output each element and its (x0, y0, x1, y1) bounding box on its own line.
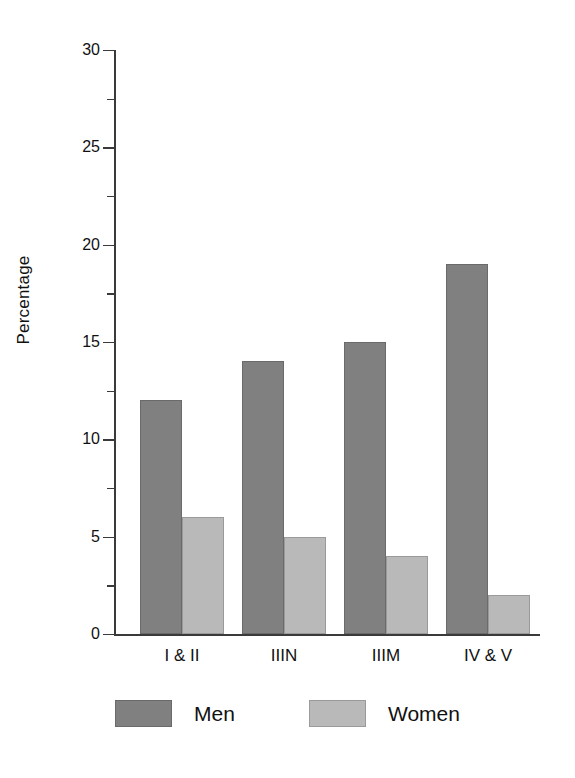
bar-women-2 (386, 556, 428, 634)
x-axis-line (114, 634, 540, 636)
y-tick-label: 25 (82, 138, 100, 156)
legend-label-men: Men (194, 702, 235, 726)
plot-area: 051015202530 I & IIIIINIIIMIV & V (114, 50, 540, 634)
y-tick-label: 30 (82, 41, 100, 59)
y-tick-label: 5 (91, 528, 100, 546)
bar-men-2 (344, 342, 386, 634)
y-tick-major (103, 439, 114, 440)
y-tick-major (103, 634, 114, 635)
y-axis-title: Percentage (14, 220, 34, 380)
y-tick-minor (107, 196, 114, 197)
bar-men-0 (140, 400, 182, 634)
y-tick-major (103, 50, 114, 51)
x-axis-label-2: IIIM (372, 646, 400, 666)
x-axis-label-3: IV & V (464, 646, 512, 666)
legend-swatch-men-icon (115, 700, 172, 727)
y-tick-minor (107, 391, 114, 392)
legend-swatch-women-icon (309, 700, 366, 727)
bar-women-1 (284, 537, 326, 634)
y-tick-minor (107, 293, 114, 294)
bar-men-3 (446, 264, 488, 634)
y-tick-major (103, 537, 114, 538)
x-axis-label-1: IIIN (271, 646, 297, 666)
chart-legend: Men Women (0, 700, 575, 727)
x-axis-label-0: I & II (165, 646, 200, 666)
y-tick-major (103, 245, 114, 246)
y-tick-label: 20 (82, 236, 100, 254)
bar-chart-figure: Percentage 051015202530 I & IIIIINIIIMIV… (0, 0, 575, 778)
legend-item-men: Men (115, 700, 235, 727)
y-tick-minor (107, 585, 114, 586)
y-tick-label: 0 (91, 625, 100, 643)
y-tick-label: 15 (82, 333, 100, 351)
bar-women-3 (488, 595, 530, 634)
bar-women-0 (182, 517, 224, 634)
bar-men-1 (242, 361, 284, 634)
y-tick-label: 10 (82, 430, 100, 448)
y-tick-major (103, 147, 114, 148)
y-tick-minor (107, 488, 114, 489)
legend-item-women: Women (309, 700, 460, 727)
bars-layer (114, 50, 540, 634)
legend-label-women: Women (388, 702, 460, 726)
y-tick-minor (107, 99, 114, 100)
y-tick-major (103, 342, 114, 343)
